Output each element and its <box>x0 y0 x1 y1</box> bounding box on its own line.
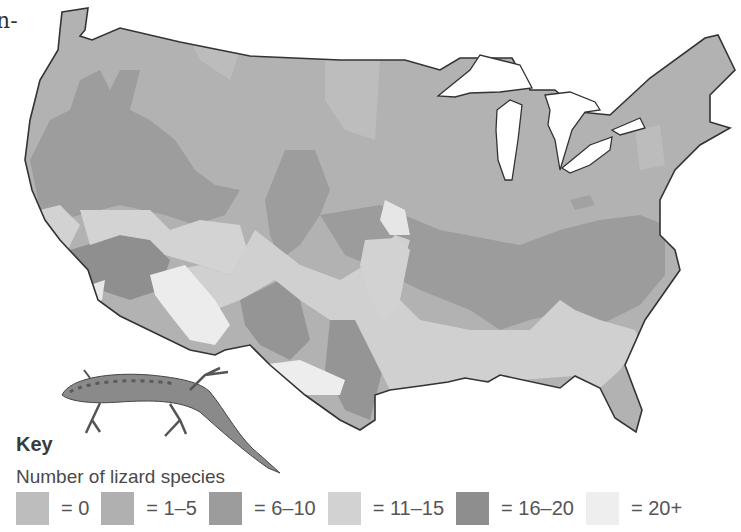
legend-swatch <box>16 492 49 525</box>
legend-swatch <box>456 492 489 525</box>
us-lizard-species-map <box>0 0 741 532</box>
legend-item-20-plus: = 20+ <box>586 492 682 525</box>
legend-swatch <box>328 492 361 525</box>
legend-item-1-5: = 1–5 <box>101 492 197 525</box>
key-subtitle: Number of lizard species <box>16 466 225 488</box>
legend-label: = 11–15 <box>373 497 444 520</box>
legend-label: = 20+ <box>631 497 682 520</box>
key-title: Key <box>16 433 53 456</box>
legend-swatch <box>209 492 242 525</box>
legend-item-16-20: = 16–20 <box>456 492 574 525</box>
map-regions <box>0 0 741 532</box>
legend-item-11-15: = 11–15 <box>328 492 444 525</box>
legend-label: = 6–10 <box>254 497 316 520</box>
legend-label: = 0 <box>61 497 89 520</box>
legend-swatch <box>586 492 619 525</box>
legend-item-6-10: = 6–10 <box>209 492 316 525</box>
legend-swatch <box>101 492 134 525</box>
legend-label: = 16–20 <box>501 497 574 520</box>
legend: = 0 = 1–5 = 6–10 = 11–15 = 16–20 = 20+ <box>16 492 694 525</box>
legend-item-0: = 0 <box>16 492 89 525</box>
legend-label: = 1–5 <box>146 497 197 520</box>
lizard-illustration <box>62 368 280 473</box>
